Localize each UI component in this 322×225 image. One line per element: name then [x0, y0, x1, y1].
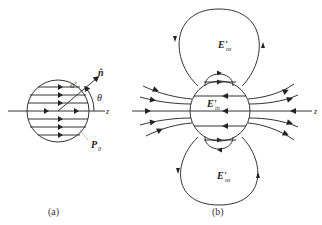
- internal-field-lines: [190, 93, 250, 129]
- polarization-subscript: 0: [98, 146, 101, 152]
- svg-text:−: −: [28, 108, 31, 113]
- field-inside-sub: in: [215, 105, 220, 111]
- caption-b: (b): [212, 206, 224, 218]
- z-axis-label-a: z: [105, 107, 110, 116]
- field-outside-sub-top: os: [226, 46, 232, 52]
- p0-leader: [80, 130, 88, 140]
- theta-label: θ: [97, 92, 102, 103]
- svg-text:+: +: [84, 108, 87, 113]
- panel-b: E' os E' in E' os z (b): [132, 9, 318, 218]
- diagram: − − − + + + σ' n̂ θ z P 0 (a): [0, 0, 322, 225]
- polarization-label: P: [91, 139, 98, 150]
- normal-label: n̂: [98, 67, 104, 78]
- sigma-label: σ': [70, 80, 77, 90]
- external-field-lines-right: [248, 84, 312, 140]
- inner-loop-top: [205, 74, 233, 86]
- svg-text:−: −: [32, 128, 35, 133]
- caption-a: (a): [48, 206, 59, 218]
- svg-text:−: −: [32, 88, 35, 93]
- z-axis-label-b: z: [313, 107, 318, 116]
- external-field-lines-left: [132, 86, 192, 136]
- panel-a: − − − + + + σ' n̂ θ z P 0 (a): [8, 67, 110, 218]
- field-outside-sub-bottom: os: [225, 177, 231, 183]
